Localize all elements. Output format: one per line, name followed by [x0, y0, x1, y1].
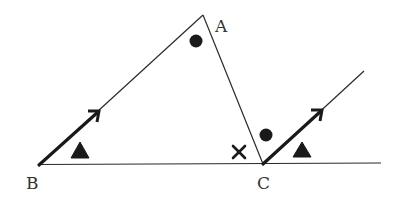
triangle-angle-mark-icon	[293, 142, 311, 157]
segment-ac	[203, 15, 263, 164]
point-label-a: A	[214, 16, 228, 36]
triangle-diagram: A B C	[0, 0, 399, 207]
dot-angle-mark-icon	[190, 35, 203, 48]
cross-angle-mark-icon	[233, 146, 245, 158]
parallel-arrow-icon	[39, 111, 99, 165]
dot-angle-mark-icon	[260, 129, 273, 142]
point-label-c: C	[257, 173, 270, 193]
triangle-angle-mark-icon	[71, 142, 89, 158]
segment-bc-extended	[39, 163, 381, 165]
point-label-b: B	[26, 173, 39, 193]
